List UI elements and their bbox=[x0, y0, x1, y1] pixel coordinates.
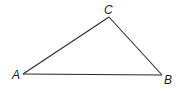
vertex-label-c: C bbox=[104, 3, 113, 17]
edge-cb bbox=[109, 17, 162, 75]
triangle-diagram: A B C bbox=[0, 0, 182, 93]
edge-ab bbox=[23, 74, 162, 75]
vertex-label-b: B bbox=[164, 73, 172, 87]
edge-ac bbox=[23, 17, 109, 74]
vertex-label-a: A bbox=[11, 68, 20, 82]
